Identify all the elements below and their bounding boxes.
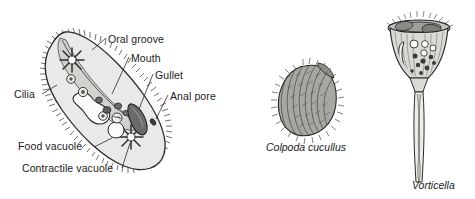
label-gullet: Gullet bbox=[155, 70, 183, 81]
caption-vorticella: Vorticella bbox=[412, 180, 455, 191]
food-vacuole bbox=[67, 75, 76, 84]
label-cilia: Cilia bbox=[14, 89, 35, 100]
label-mouth: Mouth bbox=[131, 53, 161, 64]
clear-vacuole bbox=[108, 122, 124, 138]
vorticella-contractile-vacuole bbox=[410, 40, 418, 48]
contractile-vacuole-anterior bbox=[60, 48, 84, 72]
label-anal-pore: Anal pore bbox=[170, 91, 216, 102]
colpoda-body-group bbox=[271, 58, 344, 144]
label-oral-groove: Oral groove bbox=[108, 34, 164, 45]
food-vacuole bbox=[112, 113, 122, 123]
ciliate-protozoa-figure: Oral groove Mouth Gullet Anal pore Cilia… bbox=[0, 0, 475, 199]
label-food-vacuole: Food vacuole bbox=[18, 141, 82, 152]
caption-colpoda-cucullus: Colpoda cucullus bbox=[266, 142, 346, 153]
vorticella-neck bbox=[410, 78, 428, 92]
food-vacuole bbox=[78, 87, 87, 96]
label-contractile-vacuole: Contractile vacuole bbox=[22, 163, 113, 174]
vorticella-body-group bbox=[387, 11, 453, 182]
